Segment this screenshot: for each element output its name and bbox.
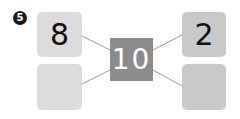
right-top-box: 2 bbox=[182, 12, 226, 57]
center-total-box: 10 bbox=[110, 38, 153, 81]
right-bottom-box-answer[interactable] bbox=[182, 64, 226, 110]
left-bottom-box-answer[interactable] bbox=[37, 64, 82, 110]
problem-number-badge: 5 bbox=[13, 11, 27, 25]
left-top-box: 8 bbox=[37, 12, 82, 57]
